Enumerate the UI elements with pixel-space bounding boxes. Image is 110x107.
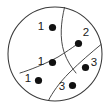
point-label: 2 (83, 26, 89, 38)
point-label: 3 (59, 80, 65, 92)
point-label: 1 (38, 55, 44, 67)
point-label: 3 (91, 56, 97, 68)
circle-regions-diagram: 121313 (0, 0, 110, 107)
point-dot (49, 59, 56, 66)
diagram-canvas: 121313 (0, 0, 110, 107)
point-dot (35, 77, 42, 84)
point-label: 1 (25, 72, 31, 84)
point-dot (75, 40, 82, 47)
point-dot (69, 82, 76, 89)
point-label: 1 (38, 20, 44, 32)
point-dot (49, 24, 56, 31)
point-dot (82, 64, 89, 71)
